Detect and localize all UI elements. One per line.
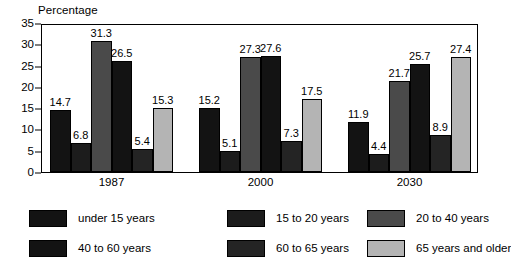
bar — [281, 141, 302, 172]
x-tick-label: 2030 — [397, 176, 423, 188]
y-axis-title: Percentage — [38, 4, 98, 16]
y-tick-mark — [35, 173, 41, 174]
bar-value-label: 11.9 — [348, 109, 369, 120]
bar-value-label: 7.3 — [284, 128, 299, 139]
bar — [71, 143, 92, 172]
legend-item: under 15 years — [29, 207, 155, 229]
y-tick-label: 0 — [28, 167, 34, 179]
bar-value-label: 27.3 — [240, 44, 261, 55]
y-tick-label: 15 — [21, 103, 34, 115]
legend-swatch — [227, 240, 265, 257]
y-axis: 05101520253035 — [0, 24, 34, 173]
bar — [430, 135, 451, 172]
bar-value-label: 27.6 — [260, 43, 281, 54]
y-tick-label: 20 — [21, 82, 34, 94]
bar — [153, 108, 174, 172]
bar — [348, 122, 369, 172]
legend-item: 40 to 60 years — [29, 237, 151, 259]
y-tick-label: 35 — [21, 18, 34, 30]
legend-swatch — [367, 210, 405, 227]
bar-value-label: 8.9 — [433, 122, 448, 133]
bar — [410, 64, 431, 172]
y-tick-mark — [35, 24, 41, 25]
legend-item: 20 to 40 years — [367, 207, 489, 229]
y-tick-label: 25 — [21, 61, 34, 73]
bar — [132, 149, 153, 172]
x-axis: 198720002030 — [42, 176, 477, 194]
bar-value-label: 21.7 — [389, 68, 410, 79]
bar-value-label: 27.4 — [450, 44, 471, 55]
y-tick-mark — [35, 151, 41, 152]
bar-value-label: 5.1 — [222, 138, 237, 149]
legend-item: 15 to 20 years — [227, 207, 349, 229]
bar-value-label: 15.2 — [199, 95, 220, 106]
bar-value-label: 25.7 — [409, 51, 430, 62]
y-tick-label: 30 — [21, 40, 34, 52]
bar-value-label: 26.5 — [111, 48, 132, 59]
x-tick-label: 2000 — [248, 176, 274, 188]
legend-swatch — [227, 210, 265, 227]
legend-label: 20 to 40 years — [416, 212, 489, 224]
bar — [369, 154, 390, 172]
legend-label: 65 years and older — [416, 242, 511, 254]
bars-layer: 14.76.831.326.55.415.315.25.127.327.67.3… — [42, 25, 477, 172]
x-tick-label: 1987 — [99, 176, 125, 188]
bar-value-label: 5.4 — [135, 136, 150, 147]
y-tick-mark — [35, 45, 41, 46]
y-tick-mark — [35, 87, 41, 88]
chart-legend: under 15 years15 to 20 years20 to 40 yea… — [29, 207, 469, 265]
bar — [451, 57, 472, 172]
bar-value-label: 17.5 — [301, 86, 322, 97]
legend-label: under 15 years — [78, 212, 155, 224]
y-tick-mark — [35, 109, 41, 110]
bar — [302, 99, 323, 173]
legend-label: 60 to 65 years — [276, 242, 349, 254]
bar-value-label: 6.8 — [73, 130, 88, 141]
y-tick-label: 5 — [28, 146, 34, 158]
legend-label: 15 to 20 years — [276, 212, 349, 224]
bar — [112, 61, 133, 172]
bar — [50, 110, 71, 172]
legend-swatch — [29, 240, 67, 257]
y-tick-label: 10 — [21, 125, 34, 137]
legend-item: 65 years and older — [367, 237, 511, 259]
bar — [389, 81, 410, 172]
legend-label: 40 to 60 years — [78, 242, 151, 254]
bar — [220, 151, 241, 172]
bar — [261, 56, 282, 172]
bar-value-label: 31.3 — [91, 28, 112, 39]
y-tick-mark — [35, 130, 41, 131]
y-tick-mark — [35, 66, 41, 67]
legend-swatch — [367, 240, 405, 257]
bar — [199, 108, 220, 172]
legend-swatch — [29, 210, 67, 227]
legend-item: 60 to 65 years — [227, 237, 349, 259]
bar-value-label: 14.7 — [50, 97, 71, 108]
bar — [91, 41, 112, 172]
bar-value-label: 4.4 — [371, 141, 386, 152]
bar — [240, 57, 261, 172]
bar-value-label: 15.3 — [152, 95, 173, 106]
